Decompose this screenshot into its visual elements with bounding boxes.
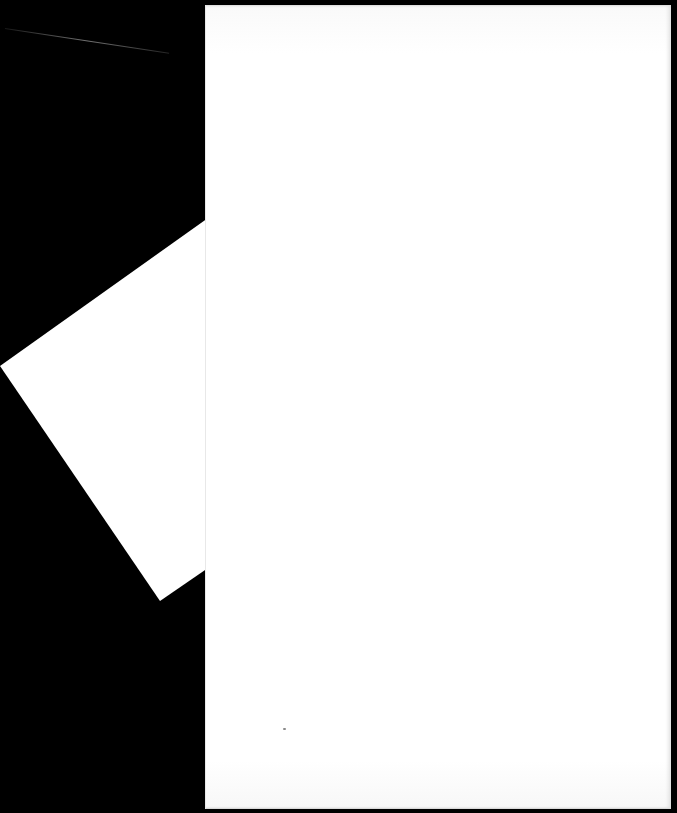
black-background [0, 0, 677, 813]
paper-speck [283, 728, 286, 730]
main-paper-sheet [205, 5, 671, 809]
